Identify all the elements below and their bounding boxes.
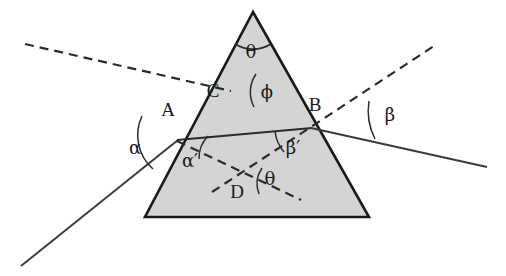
angle-label-alpha-prime: α′ [182, 150, 198, 171]
angle-label-theta-d: θ [265, 168, 276, 189]
point-label-d: D [230, 181, 244, 202]
angle-label-beta: β [385, 104, 395, 125]
angle-label-beta-prime: β′ [286, 137, 301, 158]
prism-diagram-svg: A B C D α α′ β β′ θ θ ϕ [0, 0, 506, 276]
normal-at-a-line [25, 44, 231, 91]
point-label-b: B [309, 94, 322, 115]
point-label-c: C [207, 80, 220, 101]
point-label-a: A [161, 99, 175, 120]
prism-diagram-figure: A B C D α α′ β β′ θ θ ϕ [0, 0, 506, 276]
angle-label-phi: ϕ [261, 81, 273, 102]
angle-label-theta-apex: θ [246, 41, 257, 62]
angle-label-alpha: α [129, 137, 141, 158]
arc-beta [368, 101, 375, 139]
